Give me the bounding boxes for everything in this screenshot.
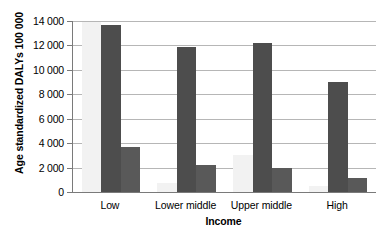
y-tick-mark bbox=[67, 143, 72, 144]
bar-group bbox=[309, 21, 368, 192]
y-tick-label: 2 000 bbox=[0, 163, 64, 173]
y-tick-label: 10 000 bbox=[0, 65, 64, 75]
x-tick-label: Low bbox=[72, 198, 148, 212]
y-tick-mark bbox=[67, 94, 72, 95]
x-tick-label: Lower middle bbox=[148, 198, 224, 212]
bar bbox=[157, 183, 177, 192]
y-tick-mark bbox=[67, 119, 72, 120]
y-tick-label: 12 000 bbox=[0, 40, 64, 50]
bar-group bbox=[233, 21, 292, 192]
bar bbox=[253, 43, 273, 192]
y-axis-tick-labels: 02 0004 0006 0008 00010 00012 00014 000 bbox=[0, 0, 64, 244]
bar bbox=[121, 147, 141, 192]
y-tick-mark bbox=[67, 21, 72, 22]
y-tick-label: 4 000 bbox=[0, 138, 64, 148]
bar bbox=[82, 22, 102, 192]
bar-chart-figure: Age standardized DALYs 100 000 02 0004 0… bbox=[0, 0, 379, 244]
x-tick-label: Upper middle bbox=[224, 198, 300, 212]
bar bbox=[328, 82, 348, 192]
bar-group bbox=[157, 21, 216, 192]
y-tick-label: 8 000 bbox=[0, 89, 64, 99]
bar bbox=[177, 47, 197, 192]
y-tick-label: 6 000 bbox=[0, 114, 64, 124]
x-axis-title: Income bbox=[72, 215, 375, 227]
x-axis-tick-labels: LowLower middleUpper middleHigh bbox=[72, 198, 375, 214]
bar bbox=[272, 168, 292, 192]
bar bbox=[233, 155, 253, 192]
y-tick-mark bbox=[67, 45, 72, 46]
bar bbox=[348, 178, 368, 192]
plot-area bbox=[72, 21, 376, 193]
bar bbox=[309, 186, 329, 192]
bar bbox=[101, 25, 121, 192]
x-tick-label: High bbox=[299, 198, 375, 212]
y-tick-mark bbox=[67, 70, 72, 71]
y-tick-label: 14 000 bbox=[0, 16, 64, 26]
y-tick-label: 0 bbox=[0, 187, 64, 197]
y-tick-mark bbox=[67, 192, 72, 193]
bar bbox=[196, 165, 216, 192]
bar-group bbox=[82, 21, 141, 192]
y-tick-mark bbox=[67, 168, 72, 169]
